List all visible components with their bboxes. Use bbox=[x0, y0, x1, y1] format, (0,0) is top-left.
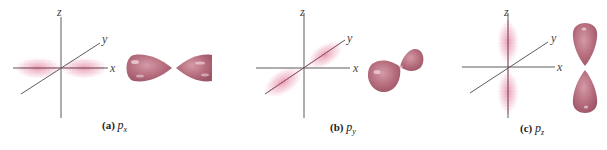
caption-tag: (a) bbox=[102, 119, 115, 131]
x-axis-label: x bbox=[352, 61, 359, 75]
z-axis-label: z bbox=[299, 5, 305, 19]
pz-lobes bbox=[573, 23, 597, 113]
orbital-figure: z x y z x y bbox=[0, 0, 607, 150]
panel-py: z x y bbox=[256, 5, 423, 118]
caption-px: (a) px bbox=[102, 118, 127, 133]
caption-subscript: z bbox=[541, 128, 544, 137]
caption-py: (b) py bbox=[330, 120, 356, 135]
x-axis-label: x bbox=[109, 61, 116, 75]
y-axis-label: y bbox=[346, 31, 353, 45]
y-axis-label: y bbox=[101, 32, 108, 46]
py-lobes bbox=[368, 49, 423, 92]
caption-tag: (c) bbox=[520, 122, 532, 134]
caption-tag: (b) bbox=[330, 121, 343, 133]
panel-pz: z x y bbox=[462, 5, 597, 118]
y-axis-label: y bbox=[550, 31, 557, 45]
caption-subscript: x bbox=[124, 125, 128, 134]
py-density-cloud bbox=[258, 35, 348, 104]
caption-symbol: p bbox=[118, 118, 124, 132]
caption-pz: (c) pz bbox=[520, 121, 544, 136]
x-axis-label: x bbox=[556, 60, 563, 74]
z-axis-label: z bbox=[56, 5, 62, 19]
panel-px: z x y bbox=[13, 5, 212, 118]
px-lobes bbox=[127, 55, 213, 82]
z-axis-label: z bbox=[503, 5, 509, 19]
caption-subscript: y bbox=[352, 127, 356, 136]
